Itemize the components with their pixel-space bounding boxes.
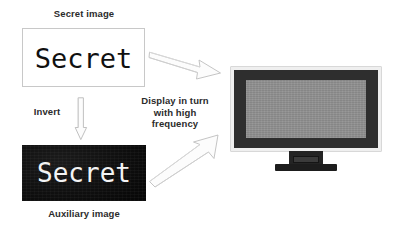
auxiliary-image-label: Auxiliary image <box>0 208 168 219</box>
monitor-bezel <box>234 70 378 148</box>
secret-image-text: Secret <box>23 44 144 71</box>
arrow-right-up-icon <box>148 133 228 189</box>
monitor-stand-base <box>275 164 337 171</box>
invert-label: Invert <box>24 106 70 117</box>
monitor-stand-slot <box>293 156 319 163</box>
monitor-screen <box>246 80 366 138</box>
display-frequency-label: Display in turn with high frequency <box>131 95 219 130</box>
secret-image-box: Secret <box>22 28 145 87</box>
monitor-frame <box>230 66 382 152</box>
monitor <box>230 66 382 170</box>
secret-image-label: Secret image <box>0 8 168 19</box>
auxiliary-image-text: Secret <box>22 160 146 186</box>
auxiliary-image-box: Secret <box>22 145 146 201</box>
arrow-down-icon <box>74 97 88 141</box>
arrow-right-down-icon <box>148 45 224 91</box>
diagram-canvas: Secret image Secret Invert Secret Auxili… <box>0 0 393 236</box>
